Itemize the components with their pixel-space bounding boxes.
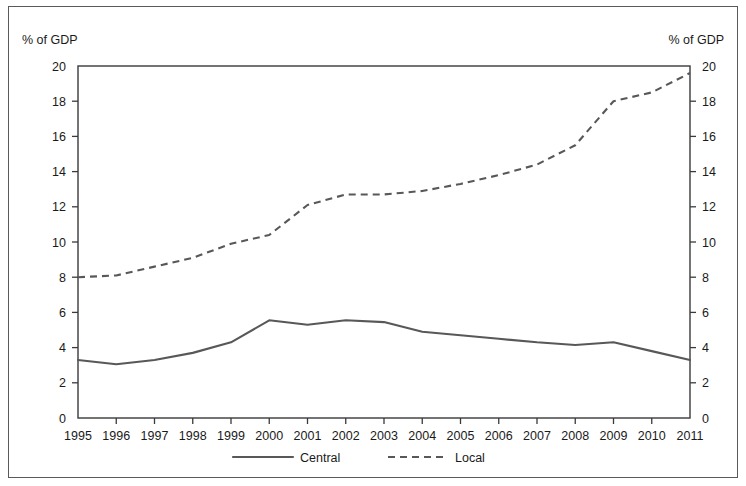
- y-tick-label-left: 4: [59, 341, 66, 355]
- chart-figure: % of GDP % of GDP 02468101214161820 0246…: [0, 0, 746, 486]
- y-tick-label-left: 0: [59, 412, 66, 426]
- line-chart: % of GDP % of GDP 02468101214161820 0246…: [0, 0, 746, 486]
- left-axis-unit-label: % of GDP: [22, 33, 78, 47]
- y-tick-label-left: 2: [59, 376, 66, 390]
- x-tick-label: 2000: [255, 429, 283, 443]
- x-tick-label: 1998: [179, 429, 207, 443]
- x-axis-ticks: [116, 418, 652, 424]
- y-tick-label-right: 14: [702, 165, 716, 179]
- x-tick-label: 2003: [370, 429, 398, 443]
- y-tick-label-right: 10: [702, 236, 716, 250]
- y-axis-right-ticks: [690, 101, 696, 383]
- x-tick-label: 1995: [64, 429, 92, 443]
- y-axis-left-ticks: [72, 101, 78, 383]
- x-tick-label: 1999: [217, 429, 245, 443]
- y-tick-label-left: 8: [59, 271, 66, 285]
- y-tick-label-right: 12: [702, 200, 716, 214]
- x-tick-label: 2002: [332, 429, 360, 443]
- y-tick-label-left: 6: [59, 306, 66, 320]
- x-tick-label: 2009: [600, 429, 628, 443]
- x-tick-label: 2011: [677, 429, 704, 443]
- y-tick-label-right: 0: [702, 412, 709, 426]
- x-tick-label: 2006: [485, 429, 513, 443]
- y-tick-label-right: 4: [702, 341, 709, 355]
- y-axis-right-labels: 02468101214161820: [702, 60, 716, 426]
- series-line-local: [78, 73, 690, 277]
- y-tick-label-right: 20: [702, 60, 716, 74]
- legend-label-local: Local: [455, 451, 485, 465]
- y-tick-label-left: 14: [52, 165, 66, 179]
- legend-label-central: Central: [300, 451, 340, 465]
- x-tick-label: 1997: [141, 429, 169, 443]
- x-axis-labels: 1995199619971998199920002001200220032004…: [64, 429, 703, 443]
- y-tick-label-left: 10: [52, 236, 66, 250]
- y-tick-label-right: 2: [702, 376, 709, 390]
- y-axis-left-labels: 02468101214161820: [52, 60, 66, 426]
- chart-legend: Central Local: [233, 451, 485, 465]
- x-tick-label: 1996: [102, 429, 130, 443]
- y-tick-label-right: 16: [702, 130, 716, 144]
- x-tick-label: 2001: [294, 429, 322, 443]
- x-tick-label: 2008: [561, 429, 589, 443]
- x-tick-label: 2005: [447, 429, 475, 443]
- y-tick-label-left: 20: [52, 60, 66, 74]
- y-tick-label-right: 6: [702, 306, 709, 320]
- y-tick-label-right: 18: [702, 95, 716, 109]
- y-tick-label-right: 8: [702, 271, 709, 285]
- y-tick-label-left: 18: [52, 95, 66, 109]
- x-tick-label: 2004: [408, 429, 436, 443]
- series-line-central: [78, 320, 690, 364]
- right-axis-unit-label: % of GDP: [668, 33, 724, 47]
- y-tick-label-left: 12: [52, 200, 66, 214]
- y-tick-label-left: 16: [52, 130, 66, 144]
- x-tick-label: 2010: [638, 429, 666, 443]
- x-tick-label: 2007: [523, 429, 551, 443]
